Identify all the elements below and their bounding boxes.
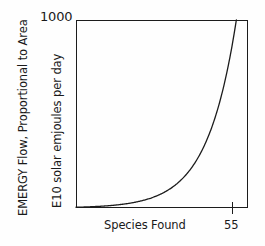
x-axis-tick-label: 55 bbox=[224, 219, 239, 231]
x-axis-tick-mark bbox=[232, 202, 233, 214]
y-axis-title-outer: EMERGY Flow, Proportional to Area bbox=[18, 19, 30, 216]
y-axis-title-inner: E10 solar emjoules per day bbox=[52, 54, 64, 208]
x-axis-title: Species Found bbox=[104, 219, 186, 231]
chart-figure: 1000 EMERGY Flow, Proportional to Area E… bbox=[0, 0, 265, 246]
data-curve bbox=[76, 20, 248, 208]
y-axis-max-label: 1000 bbox=[40, 10, 72, 23]
